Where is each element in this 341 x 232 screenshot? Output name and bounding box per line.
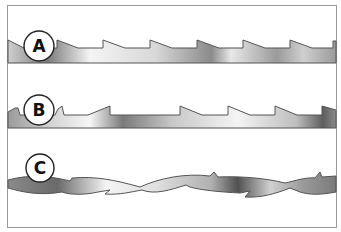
label-b: B [33, 100, 46, 120]
blade-c: C [8, 154, 336, 197]
saw-blades-diagram: A B C [0, 0, 341, 232]
label-a: A [32, 36, 46, 56]
blade-b: B [8, 95, 336, 128]
blade-a: A [8, 31, 336, 63]
label-c: C [34, 158, 46, 178]
